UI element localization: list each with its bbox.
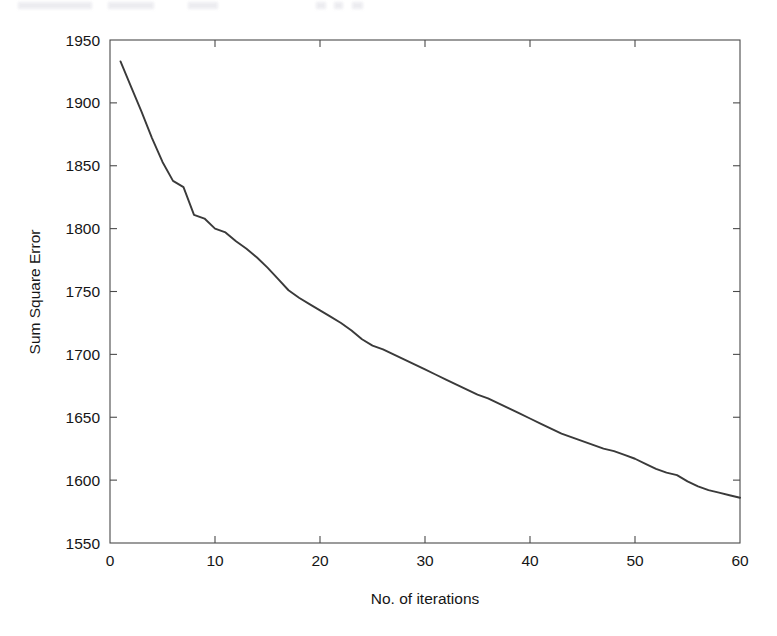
x-tick-label: 30 <box>416 552 434 569</box>
y-tick-label: 1650 <box>66 409 101 426</box>
data-series-group <box>121 61 741 497</box>
x-tick-label: 20 <box>311 552 329 569</box>
line-chart-plot: 155016001650170017501800185019001950 010… <box>0 0 777 636</box>
y-axis-ticks <box>110 103 117 480</box>
y-tick-label: 1750 <box>66 283 101 300</box>
x-axis-ticks-top <box>215 40 635 47</box>
y-tick-label: 1950 <box>66 32 101 49</box>
plot-frame <box>110 40 740 543</box>
x-tick-label: 60 <box>731 552 749 569</box>
x-axis-ticks <box>215 536 635 543</box>
y-tick-label: 1700 <box>66 346 101 363</box>
x-axis-tick-labels: 0102030405060 <box>106 552 749 569</box>
y-tick-label: 1800 <box>66 220 101 237</box>
x-axis-title: No. of iterations <box>371 590 480 607</box>
x-tick-label: 10 <box>206 552 224 569</box>
y-tick-label: 1600 <box>66 472 101 489</box>
y-tick-label: 1550 <box>66 535 101 552</box>
y-tick-label: 1900 <box>66 94 101 111</box>
y-axis-title: Sum Square Error <box>26 230 43 355</box>
y-axis-ticks-right <box>733 103 740 480</box>
x-tick-label: 50 <box>626 552 644 569</box>
y-axis-tick-labels: 155016001650170017501800185019001950 <box>66 32 101 552</box>
chart-figure: 155016001650170017501800185019001950 010… <box>0 0 777 636</box>
y-tick-label: 1850 <box>66 157 101 174</box>
x-tick-label: 40 <box>521 552 539 569</box>
series-line-sum-square-error <box>121 61 741 497</box>
x-tick-label: 0 <box>106 552 115 569</box>
